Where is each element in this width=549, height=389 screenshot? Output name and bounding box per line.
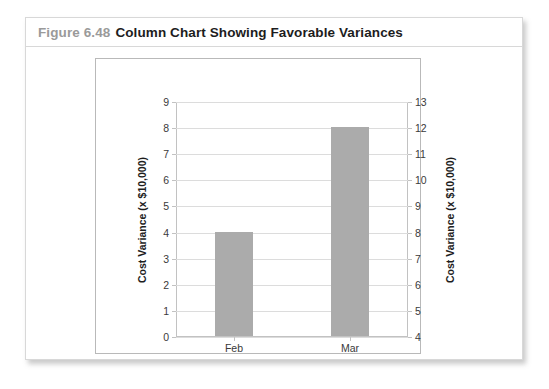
- y-axis-left-tick: [172, 233, 176, 234]
- y-axis-left-tick-label: 1: [163, 305, 169, 317]
- plot-area: 0123456789 45678910111213 FebMar Cost Va…: [176, 102, 408, 337]
- figure-caption: Figure 6.48Column Chart Showing Favorabl…: [26, 18, 522, 47]
- y-axis-right-tick-label: 9: [415, 200, 421, 212]
- gridline: [176, 128, 408, 129]
- y-axis-left-tick: [172, 337, 176, 338]
- y-axis-right-tick: [408, 128, 412, 129]
- y-axis-left-tick-label: 4: [163, 227, 169, 239]
- y-axis-left-line: [176, 102, 177, 337]
- caption-text: Figure 6.48Column Chart Showing Favorabl…: [38, 23, 403, 41]
- x-axis-tick: [234, 337, 235, 341]
- y-axis-right-tick-label: 5: [415, 305, 421, 317]
- y-axis-right-title: Cost Variance (x $10,000): [444, 156, 456, 282]
- y-axis-right-tick: [408, 206, 412, 207]
- y-axis-left-tick-label: 9: [163, 96, 169, 108]
- y-axis-left-tick: [172, 206, 176, 207]
- y-axis-right-tick: [408, 102, 412, 103]
- y-axis-left-tick: [172, 311, 176, 312]
- y-axis-left-tick: [172, 180, 176, 181]
- gridline: [176, 259, 408, 260]
- y-axis-right-line: [407, 102, 408, 337]
- y-axis-left-tick: [172, 128, 176, 129]
- figure-card: Figure 6.48Column Chart Showing Favorabl…: [25, 17, 523, 360]
- gridline: [176, 102, 408, 103]
- y-axis-left-tick: [172, 102, 176, 103]
- y-axis-right-tick: [408, 285, 412, 286]
- y-axis-left-tick: [172, 259, 176, 260]
- y-axis-left-tick-label: 8: [163, 122, 169, 134]
- y-axis-right-tick-label: 6: [415, 279, 421, 291]
- x-axis-label-feb: Feb: [225, 342, 243, 354]
- gridline: [176, 337, 408, 338]
- gridline: [176, 233, 408, 234]
- gridline: [176, 285, 408, 286]
- y-axis-right-tick-label: 7: [415, 253, 421, 265]
- chart-container: 0123456789 45678910111213 FebMar Cost Va…: [95, 58, 421, 354]
- bar-feb: [215, 232, 253, 336]
- x-axis-label-mar: Mar: [341, 342, 359, 354]
- gridline: [176, 180, 408, 181]
- y-axis-left-tick-label: 6: [163, 174, 169, 186]
- x-axis-tick: [350, 337, 351, 341]
- y-axis-left-tick: [172, 154, 176, 155]
- y-axis-left-tick-label: 3: [163, 253, 169, 265]
- y-axis-right-tick: [408, 180, 412, 181]
- y-axis-right-tick-label: 11: [415, 148, 426, 160]
- y-axis-left-tick-label: 2: [163, 279, 169, 291]
- y-axis-left-tick-label: 7: [163, 148, 169, 160]
- y-axis-left-tick-label: 0: [163, 331, 169, 343]
- gridline: [176, 206, 408, 207]
- y-axis-right-tick-label: 12: [415, 122, 427, 134]
- y-axis-left-tick-label: 5: [163, 200, 169, 212]
- gridline: [176, 154, 408, 155]
- gridline: [176, 311, 408, 312]
- y-axis-left-tick: [172, 285, 176, 286]
- y-axis-right-tick: [408, 337, 412, 338]
- y-axis-right-tick: [408, 233, 412, 234]
- y-axis-left-title: Cost Variance (x $10,000): [136, 156, 148, 282]
- y-axis-right-tick: [408, 259, 412, 260]
- y-axis-right-tick: [408, 154, 412, 155]
- figure-number: Figure 6.48: [38, 25, 110, 40]
- y-axis-right-tick: [408, 311, 412, 312]
- y-axis-right-tick-label: 10: [415, 174, 427, 186]
- page-title: Column Chart Showing Favorable Variances: [115, 25, 403, 40]
- y-axis-right-tick-label: 8: [415, 227, 421, 239]
- bar-mar: [331, 127, 369, 336]
- y-axis-right-tick-label: 4: [415, 331, 421, 343]
- y-axis-right-tick-label: 13: [415, 96, 427, 108]
